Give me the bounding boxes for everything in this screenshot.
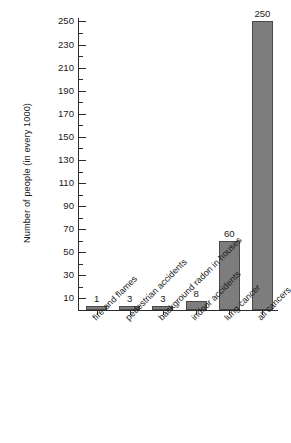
- y-tick-minor: [79, 148, 83, 149]
- y-tick-label: 170: [58, 109, 74, 119]
- y-tick-mark: [79, 229, 86, 230]
- y-tick-label: 90: [63, 201, 74, 211]
- y-tick-label: 70: [63, 224, 74, 234]
- y-tick-mark: [79, 21, 86, 22]
- y-tick-mark: [79, 206, 86, 207]
- bar-value-label: 250: [242, 9, 282, 19]
- y-tick-label: 30: [63, 271, 74, 281]
- y-tick-label: 210: [58, 63, 74, 73]
- y-tick-minor: [79, 287, 83, 288]
- y-tick-label: 50: [63, 247, 74, 257]
- y-tick-label: 150: [58, 132, 74, 142]
- y-tick-mark: [79, 160, 86, 161]
- y-tick-minor: [79, 33, 83, 34]
- y-tick-label: 110: [59, 178, 74, 188]
- y-tick-mark: [79, 114, 86, 115]
- y-tick-mark: [79, 137, 86, 138]
- bar-value-label: 60: [209, 229, 249, 239]
- y-tick-label: 250: [58, 17, 74, 27]
- y-tick-mark: [79, 252, 86, 253]
- y-tick-mark: [79, 68, 86, 69]
- y-tick-minor: [79, 264, 83, 265]
- bar: [252, 21, 273, 310]
- y-tick-minor: [79, 125, 83, 126]
- y-tick-minor: [79, 102, 83, 103]
- y-tick-minor: [79, 241, 83, 242]
- y-tick-mark: [79, 275, 86, 276]
- bar-chart-figure: Number of people (in every 1000) 1030507…: [0, 0, 291, 443]
- y-tick-minor: [79, 195, 83, 196]
- plot-area: 1030507090110130150170190210230250 13386…: [78, 18, 277, 310]
- y-tick-minor: [79, 56, 83, 57]
- y-tick-mark: [79, 45, 86, 46]
- y-axis-title: Number of people (in every 1000): [22, 73, 32, 273]
- y-tick-label: 130: [58, 155, 74, 165]
- y-tick-minor: [79, 218, 83, 219]
- y-tick-label: 10: [63, 294, 74, 304]
- y-tick-mark: [79, 91, 86, 92]
- y-tick-mark: [79, 183, 86, 184]
- y-tick-label: 230: [58, 40, 74, 50]
- y-tick-minor: [79, 79, 83, 80]
- y-tick-minor: [79, 172, 83, 173]
- y-tick-label: 190: [58, 86, 74, 96]
- y-axis-line: [78, 18, 79, 311]
